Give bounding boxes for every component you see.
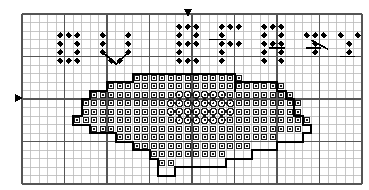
cross-stitch-chart: Cross-Stitch Pattern Chart bbox=[0, 0, 369, 190]
chart-canvas bbox=[0, 0, 369, 190]
